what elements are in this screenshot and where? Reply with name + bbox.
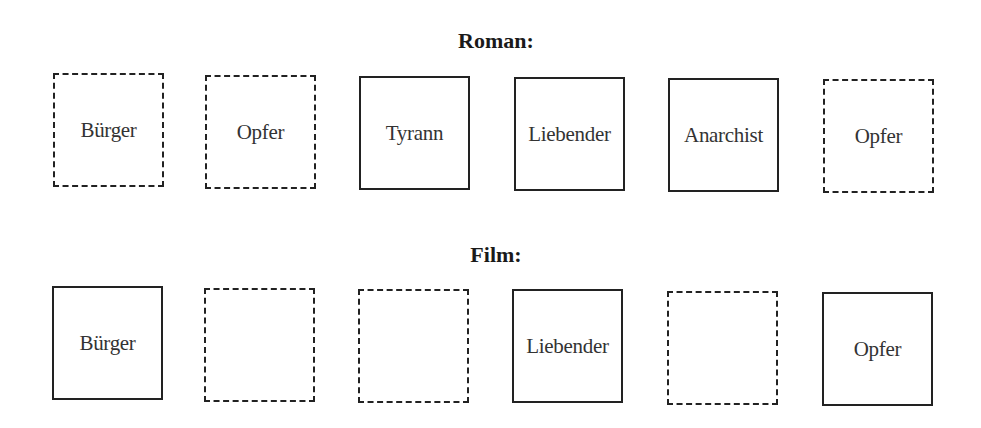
film-box-empty-3 (667, 291, 778, 405)
roman-box-liebender: Liebender (514, 77, 625, 191)
box-label: Opfer (854, 337, 901, 362)
box-label: Bürger (79, 331, 135, 356)
roman-box-opfer-1: Opfer (205, 75, 316, 189)
box-label: Liebender (528, 122, 610, 147)
roman-title: Roman: (0, 28, 981, 54)
film-title: Film: (0, 242, 981, 268)
film-box-liebender: Liebender (512, 289, 623, 403)
box-label: Liebender (526, 334, 608, 359)
roman-box-opfer-2: Opfer (823, 79, 934, 193)
box-label: Tyrann (386, 121, 443, 146)
roman-box-tyrann: Tyrann (359, 76, 470, 190)
box-label: Bürger (80, 118, 136, 143)
film-box-empty-2 (358, 289, 469, 403)
box-label: Anarchist (684, 123, 763, 148)
roman-box-anarchist: Anarchist (668, 78, 779, 192)
box-label: Opfer (855, 124, 902, 149)
film-box-buerger: Bürger (52, 286, 163, 400)
roman-box-buerger: Bürger (53, 73, 164, 187)
film-box-empty-1 (204, 288, 315, 402)
film-box-opfer: Opfer (822, 292, 933, 406)
box-label: Opfer (237, 120, 284, 145)
